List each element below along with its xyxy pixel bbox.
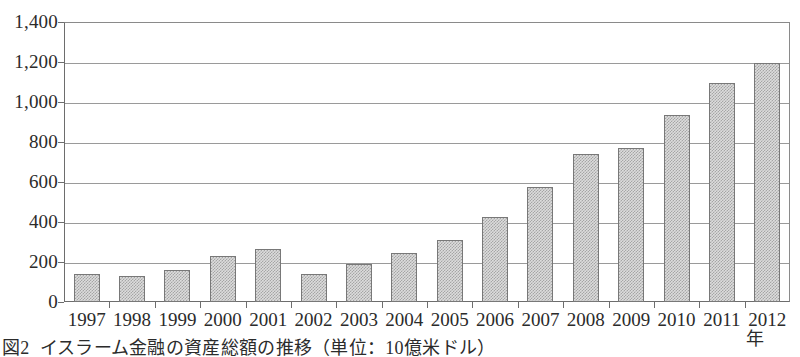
bar — [119, 276, 145, 302]
y-axis-tick-mark — [58, 302, 64, 303]
bar-slot — [109, 22, 154, 302]
bar — [527, 187, 553, 302]
bar-slot — [64, 22, 109, 302]
bar-slot — [745, 22, 790, 302]
bar-slot — [427, 22, 472, 302]
bar-slot — [200, 22, 245, 302]
bar-slot — [155, 22, 200, 302]
x-axis-tick-mark — [246, 302, 247, 308]
x-axis-tick-mark — [336, 302, 337, 308]
bar — [618, 148, 644, 302]
bar-slot — [699, 22, 744, 302]
bar — [754, 63, 780, 302]
bar-slot — [563, 22, 608, 302]
bar — [255, 249, 281, 302]
y-axis-tick-label: 800 — [0, 132, 58, 151]
figure-caption: 図2イスラーム金融の資産総額の推移（単位：10億米ドル） — [2, 338, 495, 357]
x-axis-tick-mark — [472, 302, 473, 308]
x-axis-tick-mark — [609, 302, 610, 308]
figure-caption-text: イスラーム金融の資産総額の推移（単位：10億米ドル） — [40, 338, 496, 357]
x-axis-tick-mark — [563, 302, 564, 308]
x-axis-tick-mark — [382, 302, 383, 308]
bar-slot — [336, 22, 381, 302]
y-axis-tick-label: 200 — [0, 252, 58, 271]
bar — [346, 264, 372, 302]
figure-number: 図2 — [2, 338, 30, 357]
x-axis-unit-label: 年 — [746, 330, 764, 348]
x-axis-tick-mark — [155, 302, 156, 308]
y-axis-tick-label: 0 — [0, 292, 58, 311]
bar — [664, 115, 690, 302]
bar — [164, 270, 190, 302]
x-axis-tick-mark — [200, 302, 201, 308]
bar — [709, 83, 735, 302]
bar — [74, 274, 100, 302]
bar-slot — [609, 22, 654, 302]
x-axis-tick-mark — [745, 302, 746, 308]
x-axis-tick-label: 2012 — [737, 309, 797, 330]
bar-slot — [654, 22, 699, 302]
bar — [301, 274, 327, 302]
bar-slot — [291, 22, 336, 302]
bar-slot — [472, 22, 517, 302]
x-axis-tick-mark — [291, 302, 292, 308]
y-axis-tick-label: 1,000 — [0, 92, 58, 111]
x-axis-tick-mark — [518, 302, 519, 308]
y-axis-tick-label: 1,400 — [0, 12, 58, 31]
bar-slot — [246, 22, 291, 302]
bar-series — [64, 22, 790, 302]
bar — [391, 253, 417, 302]
bar-slot — [382, 22, 427, 302]
bar — [210, 256, 236, 302]
y-axis-tick-label: 600 — [0, 172, 58, 191]
y-axis-tick-label: 1,200 — [0, 52, 58, 71]
x-axis-tick-mark — [654, 302, 655, 308]
y-axis-tick-label: 400 — [0, 212, 58, 231]
x-axis-tick-mark — [427, 302, 428, 308]
bar — [482, 217, 508, 302]
x-axis-tick-mark — [109, 302, 110, 308]
x-axis-tick-mark — [699, 302, 700, 308]
bar — [573, 154, 599, 302]
figure-islamic-finance-assets: 02004006008001,0001,2001,400 19971998199… — [0, 0, 800, 357]
bar-slot — [518, 22, 563, 302]
bar — [437, 240, 463, 302]
